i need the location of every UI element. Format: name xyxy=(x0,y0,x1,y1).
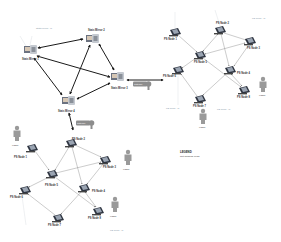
tr-ps-node-5-label: PS Node 5 xyxy=(194,60,207,64)
bl-ps-node-8[interactable] xyxy=(92,207,104,215)
bl-ps-node-3-label: PS Node 3 xyxy=(103,165,116,169)
tr-user-1-label: USER xyxy=(259,94,266,96)
tr-ps-node-8[interactable] xyxy=(238,86,250,94)
legend: LEGEND Not Sharing Load xyxy=(180,150,200,158)
stats-mirror-3[interactable] xyxy=(111,72,124,81)
tr-user-2-label: USER xyxy=(199,126,206,128)
stats-mirror-3-label: Stats Mirror 3 xyxy=(111,86,128,90)
bl-ps-node-7[interactable] xyxy=(52,214,64,222)
tr-ps-node-7-label: PS Node 7 xyxy=(193,104,206,108)
stats-mirror-4-label: Stats Mirror 4 xyxy=(58,109,75,113)
bl-ps-node-4-label: PS Node 4 xyxy=(92,189,105,193)
bl-ps-node-6-label: PS Node 6 xyxy=(10,195,23,199)
bl-ps-node-1[interactable] xyxy=(26,144,38,152)
bl-user-2-label: USER xyxy=(123,168,130,170)
legend-item-not-sharing-load: Not Sharing Load xyxy=(180,155,200,158)
tr-ghost-label-1: PS Node ..N xyxy=(252,17,266,20)
bl-user-3-label: USER xyxy=(110,215,117,217)
cluster-bottom-left-links xyxy=(28,145,103,215)
stats-mirror-1[interactable] xyxy=(24,45,37,54)
tr-user-2[interactable] xyxy=(200,109,207,124)
network-diagram: Stats Mirror 1 Stats Mirror 2 Stats Mirr… xyxy=(0,0,281,242)
cluster-bottom-left: PS Node 1 PS Node 2 PS Node 3 PS Node 5 … xyxy=(10,126,132,232)
bl-ps-node-5[interactable] xyxy=(46,170,58,178)
tr-ps-node-1-label: PS Node 1 xyxy=(164,37,177,41)
bl-ghost-label-1: PS Node ..N xyxy=(110,229,124,232)
tr-ps-node-4-label: PS Node 4 xyxy=(237,71,250,75)
tr-ps-node-6-label: PS Node 6 xyxy=(163,74,176,78)
tr-ps-node-5[interactable] xyxy=(194,51,206,59)
tr-ps-node-3-label: PS Node 3 xyxy=(247,46,260,50)
cluster-top-right: PS Node 1 PS Node 2 PS Node 3 PS Node 5 … xyxy=(163,17,267,128)
tr-ps-node-8-label: PS Node 8 xyxy=(237,95,250,99)
bl-ps-node-6[interactable] xyxy=(19,186,31,194)
bl-ps-node-8-label: PS Node 8 xyxy=(88,216,101,220)
bl-user-2[interactable] xyxy=(125,150,132,165)
bl-ps-node-7-label: PS Node 7 xyxy=(48,223,61,227)
stats-mirror-1-label: Stats Mirror 1 xyxy=(22,57,39,61)
bl-ps-node-4[interactable] xyxy=(78,184,90,192)
tr-user-1[interactable] xyxy=(260,77,267,92)
stats-mirror-n-label: Stats Mirror ..N xyxy=(36,27,52,30)
bl-ps-node-2-label: PS Node 2 xyxy=(72,137,85,141)
bl-user-1-label: USER xyxy=(12,144,19,146)
bl-ps-node-5-label: PS Node 5 xyxy=(45,183,58,187)
tr-ps-node-4[interactable] xyxy=(224,66,236,74)
bl-user-1[interactable] xyxy=(14,126,21,141)
ghost-links xyxy=(20,10,220,225)
cluster-top-right-links xyxy=(178,33,248,96)
tr-ps-node-3[interactable] xyxy=(244,37,256,45)
tr-ps-node-6[interactable] xyxy=(172,66,184,74)
tr-ghost-label-3: PS Node ..N xyxy=(217,108,231,111)
gateway-bottom-label: Gateway xyxy=(77,122,87,124)
legend-title: LEGEND xyxy=(180,150,192,154)
stats-mirror-2[interactable] xyxy=(86,34,99,43)
gateway-right-label: Gateway xyxy=(134,83,144,85)
bl-user-3[interactable] xyxy=(112,197,119,212)
tr-ps-node-7[interactable] xyxy=(194,95,206,103)
bl-ps-node-1-label: PS Node 1 xyxy=(14,155,27,159)
tr-ps-node-1[interactable] xyxy=(169,28,181,36)
stats-mirror-4[interactable] xyxy=(62,96,75,105)
stats-mirror-2-label: Stats Mirror 2 xyxy=(88,28,105,32)
bl-ps-node-3[interactable] xyxy=(99,156,111,164)
tr-ps-node-2-label: PS Node 2 xyxy=(216,21,229,25)
tr-ghost-label-2: PS Node ..N xyxy=(166,107,180,110)
